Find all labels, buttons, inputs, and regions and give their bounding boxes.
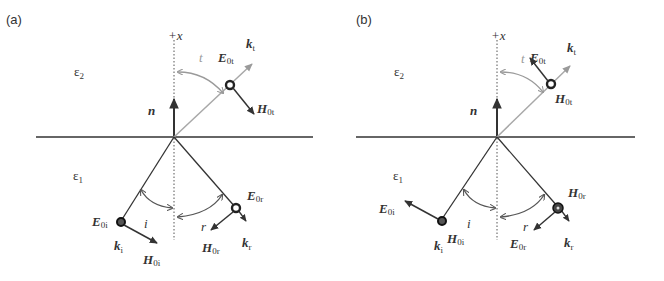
- angle-i-arc: [464, 190, 495, 208]
- angle-i-arc: [141, 190, 172, 208]
- E0t-out-of-page-icon: [226, 81, 234, 89]
- reflected-ray: [174, 137, 236, 208]
- angle-i-label: i: [144, 216, 148, 231]
- H0i-out-of-page-icon: [438, 217, 446, 225]
- H0t-out-of-page-icon: [547, 80, 555, 88]
- kt-label: kt: [246, 36, 256, 53]
- angle-t-label: t: [199, 50, 203, 65]
- H0r-label: H0r: [201, 240, 220, 256]
- angle-r-arc: [501, 195, 544, 217]
- reflected-ray: [497, 137, 558, 207]
- normal-label: n: [470, 103, 477, 118]
- angle-r-arc: [178, 195, 222, 217]
- medium-2-label: ε2: [394, 64, 404, 81]
- medium-1-label: ε1: [73, 168, 83, 185]
- ki-label: ki: [434, 238, 444, 255]
- H0i-label: H0i: [142, 252, 161, 268]
- x-axis-label: +x: [491, 28, 506, 43]
- angle-t-arc: [178, 72, 223, 93]
- E0t-label: E0t: [529, 50, 546, 66]
- panel-a-label: (a): [6, 12, 22, 27]
- E0i-vector: [405, 201, 438, 219]
- H0t-vector: [233, 88, 254, 114]
- H0r-label: H0r: [567, 185, 586, 201]
- panel-b-label: (b): [356, 12, 372, 27]
- kr-label: kr: [564, 235, 574, 252]
- x-axis-label: +x: [168, 28, 183, 43]
- angle-t-arc: [501, 72, 543, 92]
- angle-r-label: r: [201, 219, 207, 234]
- transmitted-ray: [174, 64, 252, 137]
- reflection-refraction-diagram: (a) +x n ε2 ε1 t E0t kt H0t i E0i ki H0i: [0, 0, 664, 281]
- ki-label: ki: [114, 238, 124, 255]
- panel-a: (a) +x n ε2 ε1 t E0t kt H0t i E0i ki H0i: [6, 12, 313, 268]
- angle-r-label: r: [523, 219, 529, 234]
- E0r-vector: [534, 212, 555, 230]
- H0r-vector: [211, 212, 233, 230]
- medium-2-label: ε2: [74, 64, 84, 81]
- E0i-label: E0i: [378, 201, 395, 217]
- angle-i-label: i: [467, 216, 471, 231]
- incident-ray: [121, 137, 174, 221]
- H0t-label: H0t: [256, 101, 275, 117]
- panel-b: (b) +x n ε2 ε1 t E0t kt H0t i E0i ki H0i…: [356, 12, 635, 255]
- H0t-label: H0t: [554, 91, 573, 107]
- E0r-label: E0r: [246, 188, 263, 204]
- H0i-label: H0i: [446, 231, 465, 247]
- angle-t-label: t: [521, 51, 525, 66]
- kr-label: kr: [242, 235, 252, 252]
- E0t-label: E0t: [217, 50, 234, 66]
- E0i-label: E0i: [91, 214, 108, 230]
- normal-label: n: [148, 103, 155, 118]
- kt-label: kt: [567, 40, 577, 57]
- E0r-out-of-page-icon: [232, 204, 240, 212]
- E0i-out-of-page-icon: [117, 218, 125, 226]
- H0i-vector: [124, 225, 157, 243]
- E0r-label: E0r: [509, 236, 526, 252]
- medium-1-label: ε1: [393, 168, 403, 185]
